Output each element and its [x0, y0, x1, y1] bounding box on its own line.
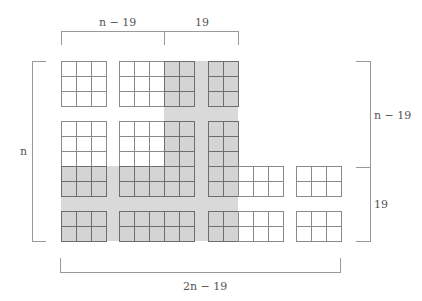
- shaded-cell: [134, 226, 150, 242]
- unshaded-cell: [61, 136, 77, 152]
- unshaded-cell: [296, 211, 312, 227]
- unshaded-cell: [91, 76, 107, 92]
- unshaded-cell: [238, 181, 254, 197]
- shaded-cell: [179, 121, 195, 137]
- shaded-cell: [179, 166, 195, 182]
- unshaded-cell: [119, 151, 135, 167]
- label-top-19: 19: [195, 16, 209, 29]
- unshaded-cell: [238, 211, 254, 227]
- shaded-cell: [164, 91, 180, 107]
- shaded-cell: [179, 181, 195, 197]
- unshaded-cell: [119, 91, 135, 107]
- shaded-cell: [149, 211, 165, 227]
- dotted-separator-left: [164, 166, 194, 167]
- unshaded-cell: [238, 226, 254, 242]
- shaded-cell: [61, 166, 77, 182]
- unshaded-cell: [268, 166, 284, 182]
- unshaded-cell: [76, 151, 92, 167]
- shaded-cell: [91, 166, 107, 182]
- shaded-cell: [179, 76, 195, 92]
- unshaded-cell: [134, 61, 150, 77]
- unshaded-cell: [253, 226, 269, 242]
- shaded-cell: [179, 151, 195, 167]
- shaded-cell: [223, 121, 239, 137]
- top-bracket-tick-mid: [164, 31, 165, 45]
- shaded-cell: [91, 181, 107, 197]
- unshaded-cell: [311, 181, 327, 197]
- shaded-cell: [149, 226, 165, 242]
- unshaded-cell: [76, 121, 92, 137]
- unshaded-cell: [149, 91, 165, 107]
- shaded-cell: [164, 61, 180, 77]
- shaded-cell: [208, 121, 224, 137]
- shaded-cell: [164, 76, 180, 92]
- unshaded-cell: [134, 136, 150, 152]
- unshaded-cell: [311, 166, 327, 182]
- shaded-cell: [91, 226, 107, 242]
- shaded-cell: [179, 211, 195, 227]
- unshaded-cell: [91, 121, 107, 137]
- shaded-cell: [208, 226, 224, 242]
- shaded-cell: [149, 181, 165, 197]
- label-left-n: n: [20, 145, 27, 158]
- shaded-cell: [208, 181, 224, 197]
- unshaded-cell: [119, 76, 135, 92]
- unshaded-cell: [253, 181, 269, 197]
- shaded-cell: [164, 136, 180, 152]
- unshaded-cell: [268, 211, 284, 227]
- shaded-cell: [119, 226, 135, 242]
- unshaded-cell: [326, 211, 342, 227]
- shaded-cell: [223, 181, 239, 197]
- shaded-cell: [76, 211, 92, 227]
- shaded-cell: [164, 166, 180, 182]
- label-right-19: 19: [374, 198, 388, 211]
- shaded-cell: [223, 91, 239, 107]
- unshaded-cell: [296, 226, 312, 242]
- shaded-cell: [223, 61, 239, 77]
- label-top-n-minus-19: n − 19: [99, 16, 136, 29]
- unshaded-cell: [296, 166, 312, 182]
- shaded-cell: [134, 181, 150, 197]
- shaded-cell: [208, 136, 224, 152]
- unshaded-cell: [296, 181, 312, 197]
- bottom-bracket-tick-left: [60, 258, 61, 273]
- left-bracket-tick-bottom: [32, 241, 46, 242]
- shaded-cell: [223, 211, 239, 227]
- shaded-cell: [164, 121, 180, 137]
- label-right-n-minus-19: n − 19: [374, 109, 411, 122]
- shaded-cell: [61, 211, 77, 227]
- unshaded-cell: [149, 136, 165, 152]
- bottom-bracket-bar: [60, 272, 341, 273]
- shaded-cell: [223, 76, 239, 92]
- unshaded-cell: [326, 166, 342, 182]
- shaded-cell: [223, 166, 239, 182]
- unshaded-cell: [149, 61, 165, 77]
- unshaded-cell: [326, 181, 342, 197]
- shaded-cell: [208, 61, 224, 77]
- unshaded-cell: [61, 91, 77, 107]
- shaded-cell: [179, 136, 195, 152]
- shaded-cell: [208, 166, 224, 182]
- right-bracket-bar: [370, 61, 371, 242]
- shaded-cell: [164, 211, 180, 227]
- unshaded-cell: [91, 91, 107, 107]
- shaded-cell: [119, 166, 135, 182]
- unshaded-cell: [268, 226, 284, 242]
- unshaded-cell: [91, 151, 107, 167]
- shaded-cell: [179, 61, 195, 77]
- unshaded-cell: [134, 121, 150, 137]
- unshaded-cell: [119, 61, 135, 77]
- bottom-bracket-tick-right: [340, 258, 341, 273]
- right-bracket-tick-bottom: [356, 241, 371, 242]
- label-bottom-2n-minus-19: 2n − 19: [183, 280, 227, 293]
- unshaded-cell: [119, 136, 135, 152]
- unshaded-cell: [149, 121, 165, 137]
- unshaded-cell: [61, 151, 77, 167]
- unshaded-cell: [134, 91, 150, 107]
- unshaded-cell: [61, 61, 77, 77]
- shaded-cell: [134, 166, 150, 182]
- shaded-cell: [164, 151, 180, 167]
- unshaded-cell: [238, 166, 254, 182]
- shaded-cell: [134, 211, 150, 227]
- unshaded-cell: [253, 166, 269, 182]
